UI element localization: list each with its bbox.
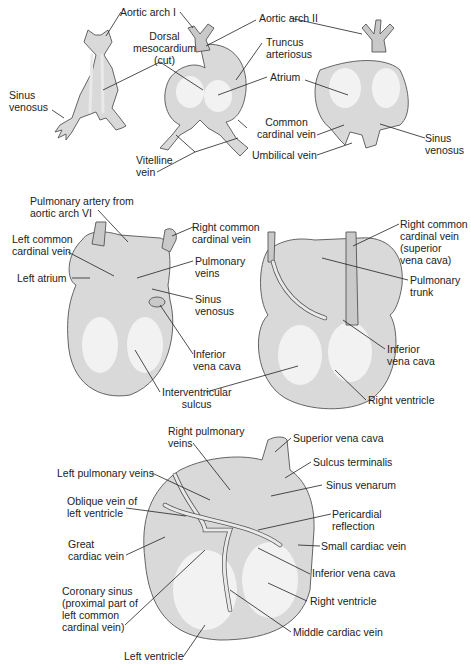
label-vitelline-vein: Vitelline vein <box>136 154 173 178</box>
label-middle-cardiac-vein: Middle cardiac vein <box>293 626 383 638</box>
mature-heart-posterior <box>144 437 314 640</box>
label-sinus-venarum: Sinus venarum <box>326 479 396 491</box>
label-pulmonary-artery: Pulmonary artery from aortic arch VI <box>30 195 134 219</box>
label-common-cardinal-vein: Common cardinal vein <box>257 116 316 140</box>
label-sulcus-terminalis: Sulcus terminalis <box>313 456 392 468</box>
label-small-cardiac-vein: Small cardiac vein <box>321 540 406 552</box>
label-sinus-venosus-left: Sinus venosus <box>9 89 48 113</box>
label-aortic-arch-1: Aortic arch I <box>120 6 176 18</box>
label-aortic-arch-2: Aortic arch II <box>259 12 318 24</box>
label-great-cardiac-vein: Great cardiac vein <box>68 538 124 562</box>
label-oblique-vein: Oblique vein of left ventricle <box>67 495 137 519</box>
label-right-ventricle: Right ventricle <box>310 595 377 607</box>
label-pulmonary-trunk: Pulmonary trunk <box>410 274 460 298</box>
tubular-heart-figure <box>55 30 126 140</box>
label-interventricular-sulcus: Interventricular sulcus <box>162 386 231 410</box>
label-inferior-vena-cava: Inferior vena cava <box>312 567 395 579</box>
label-atrium: Atrium <box>270 71 300 83</box>
label-left-atrium: Left atrium <box>17 272 67 284</box>
label-right-ventricle-mid: Right ventricle <box>368 394 435 406</box>
label-right-pulmonary-veins: Right pulmonary veins <box>168 425 244 449</box>
label-sinus-venosus: Sinus venosus <box>195 293 234 317</box>
label-coronary-sinus: Coronary sinus (proximal part of left co… <box>62 585 138 633</box>
intermediate-heart-right <box>258 232 402 409</box>
intermediate-heart-left <box>68 222 177 396</box>
label-right-common-cardinal-vein: Right common cardinal vein <box>192 221 260 245</box>
label-pulmonary-veins: Pulmonary veins <box>195 255 245 279</box>
label-sinus-venosus-right: Sinus venosus <box>425 132 464 156</box>
label-left-ventricle: Left ventricle <box>124 650 184 662</box>
label-inferior-vena-cava-left: Inferior vena cava <box>193 348 241 372</box>
label-inferior-vena-cava-right: Inferior vena cava <box>387 343 435 367</box>
label-superior-vena-cava: Superior vena cava <box>293 432 383 444</box>
label-dorsal-mesocardium: Dorsal mesocardium (cut) <box>133 30 196 66</box>
label-left-pulmonary-veins: Left pulmonary veins <box>57 467 154 479</box>
heart-development-illustration <box>0 0 471 664</box>
label-pericardial-reflection: Pericardial reflection <box>332 508 382 532</box>
label-umbilical-vein: Umbilical vein <box>252 149 317 161</box>
label-truncus-arteriosus: Truncus arteriosus <box>266 36 312 60</box>
label-left-common-cardinal-vein: Left common cardinal vein <box>12 233 73 257</box>
label-right-common-cardinal-vein-svc: Right common cardinal vein (superior ven… <box>400 218 468 266</box>
